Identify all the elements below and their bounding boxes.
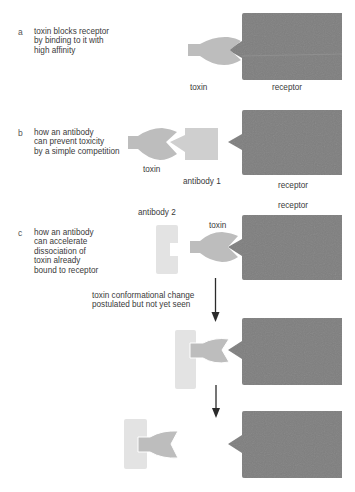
receptor-b [228,110,342,175]
down-arrow-1 [212,278,220,322]
panel-b-receptor-label: receptor [278,181,308,191]
receptor-c1 [228,215,342,280]
receptor-c3 [228,411,342,478]
panel-b-letter: b [18,128,23,138]
panel-a-toxin-label: toxin [190,83,207,93]
panel-c-step3-graphic [124,411,342,478]
panel-a-graphic [188,13,342,80]
panel-b-antibody-label: antibody 1 [183,177,221,187]
panel-c-receptor-label: receptor [278,201,308,211]
receptor-a [228,13,342,80]
panel-c-antibody-label: antibody 2 [138,208,176,218]
toxin-b [128,128,177,160]
panel-c-toxin-label: toxin [209,221,226,231]
panel-c-letter: c [18,228,22,238]
receptor-c2 [228,318,342,385]
conformational-change-note: toxin conformational change postulated b… [92,291,194,310]
panel-b-description: how an antibody can prevent toxicity by … [34,128,120,156]
down-arrow-2 [212,385,220,418]
panel-a-letter: a [18,27,23,37]
panel-a-receptor-label: receptor [272,83,302,93]
panel-c-description: how an antibody can accelerate dissociat… [34,228,98,275]
antibody-2-c1 [156,225,178,274]
antibody-1 [170,128,218,160]
panel-c-step2-graphic [175,318,342,418]
antibody-2-c2 [175,330,196,389]
panel-a-description: toxin blocks receptor by binding to it w… [34,27,109,55]
panel-b-toxin-label: toxin [143,165,160,175]
